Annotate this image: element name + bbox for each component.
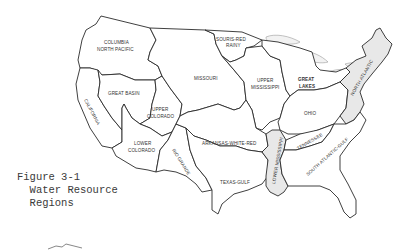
label-columbia: COLUMBIA [104,40,130,45]
label-great-lakes-1: GREAT [298,77,314,82]
region-north-atlantic [340,28,392,124]
label-texas-gulf: TEXAS-GULF [220,180,250,185]
label-lower-colorado-2: COLORADO [128,148,155,153]
label-upper-miss-2: MISSISSIPPI [251,85,279,90]
caption-subtitle-1: Water Resource [17,184,118,197]
caption-title: Figure 3-1 [17,171,118,184]
label-great-basin: GREAT BASIN [108,91,140,96]
inset-fragment [48,244,82,249]
label-missouri: MISSOURI [194,76,218,81]
water-resource-regions-map: COLUMBIA NORTH PACIFIC CALIFORNIA GREAT … [0,0,418,250]
label-ohio: OHIO [304,111,316,116]
label-great-lakes-2: LAKES [299,84,315,89]
label-lower-colorado-1: LOWER [134,141,152,146]
label-souris-red: SOURIS-RED [216,37,246,42]
caption-subtitle-2: Regions [17,197,118,210]
label-upper-colorado-1: UPPER [152,107,169,112]
label-upper-colorado-2: COLORADO [147,114,174,119]
label-arkansas-white-red: ARKANSAS-WHITE-RED [202,141,257,146]
label-rainy: RAINY [226,43,241,48]
label-north-pacific: NORTH PACIFIC [97,47,134,52]
label-upper-miss-1: UPPER [257,78,274,83]
figure-caption: Figure 3-1 Water Resource Regions [17,171,118,210]
